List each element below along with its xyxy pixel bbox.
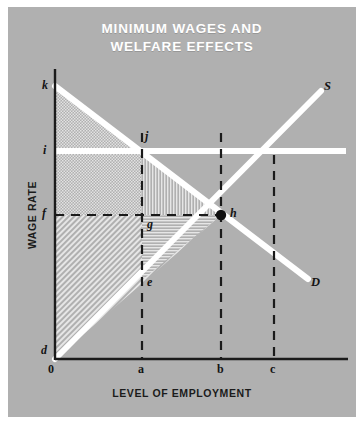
supply-curve-label: S — [324, 79, 331, 94]
x-tick-origin: 0 — [48, 362, 54, 377]
point-label-f: f — [42, 206, 46, 221]
point-label-d: d — [41, 343, 47, 358]
point-label-g: g — [147, 217, 153, 232]
y-axis-title: WAGE RATE — [26, 160, 38, 270]
point-label-j: j — [145, 129, 148, 144]
figure-root: MINIMUM WAGES AND WELFARE EFFECTS LEVEL … — [0, 0, 364, 426]
demand-curve-label: D — [311, 275, 320, 290]
equilibrium-point-h — [216, 210, 226, 220]
x-axis-title: LEVEL OF EMPLOYMENT — [8, 387, 356, 399]
economics-diagram — [8, 7, 356, 417]
x-tick-c: c — [270, 362, 275, 377]
point-label-h: h — [230, 206, 237, 221]
x-tick-b: b — [217, 362, 224, 377]
figure-panel: MINIMUM WAGES AND WELFARE EFFECTS LEVEL … — [8, 7, 356, 417]
point-label-i: i — [43, 143, 46, 158]
point-label-k: k — [42, 78, 48, 93]
point-label-e: e — [147, 275, 152, 290]
x-tick-a: a — [138, 362, 144, 377]
